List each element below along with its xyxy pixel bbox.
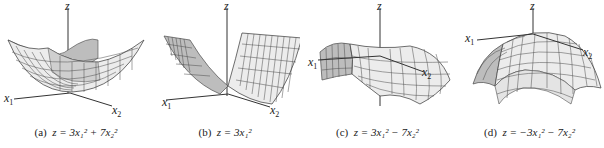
z-axis-label: z [377,0,382,12]
x2-axis-label: x2 [422,66,431,81]
x1-axis-label: x1 [4,92,13,107]
panel-b: z x1 x2 (b) z = 3x₁² [150,0,300,148]
saddle-surface-plot [300,0,455,120]
x2-axis-label: x2 [270,104,279,119]
x1-axis [14,93,70,99]
x1-axis-label: x1 [162,96,171,111]
caption-b: (b) z = 3x₁² [150,126,300,138]
x2-axis-label: x2 [583,46,592,61]
trough-surface-plot [150,0,300,120]
panel-c: z x1 x2 (c) z = 3x₁² − 7x₂² [300,0,455,148]
x2-axis-label: x2 [112,104,121,119]
panel-a: z x1 x2 (a) z = 3x₁² + 7x₂² [0,0,152,148]
caption-c: (c) z = 3x₁² − 7x₂² [300,126,455,138]
z-axis-label: z [65,0,70,12]
bowl-surface-plot [0,0,152,120]
x1-axis-label: x1 [308,56,317,71]
panel-d: z x1 x2 (d) z = −3x₁² − 7x₂² [455,0,604,148]
dome-surface-plot [455,0,604,120]
z-axis-label: z [224,0,229,12]
caption-d: (d) z = −3x₁² − 7x₂² [455,126,604,138]
x1-axis-label: x1 [465,32,474,47]
x2-axis [70,93,112,106]
z-axis-label: z [530,0,535,12]
caption-a: (a) z = 3x₁² + 7x₂² [0,126,152,138]
x1-axis [166,94,228,100]
